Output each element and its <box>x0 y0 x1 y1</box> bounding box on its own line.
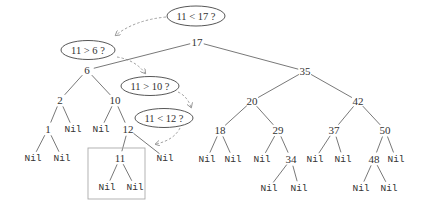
nil-leaf: Nil <box>387 154 404 165</box>
tree-edge <box>210 136 217 152</box>
nil-leaf: Nil <box>380 183 397 194</box>
nil-leaf: Nil <box>24 153 41 164</box>
tree-edge <box>281 136 288 152</box>
nil-leaf: Nil <box>290 183 307 194</box>
tree-edge <box>92 75 110 95</box>
nil-leaf: Nil <box>306 154 323 165</box>
tree-node: 11 <box>115 152 126 164</box>
nil-leaf: Nil <box>224 154 241 165</box>
comparison-label: 11 < 17 ? <box>176 11 215 22</box>
tree-edge <box>223 136 230 152</box>
tree-edge <box>65 75 83 95</box>
tree-node: 10 <box>110 94 122 106</box>
tree-node: 29 <box>273 124 285 136</box>
tree-edge <box>319 136 330 153</box>
nil-leaf: Nil <box>352 183 369 194</box>
tree-edge <box>63 106 70 122</box>
tree-edge <box>258 74 299 97</box>
tree-edge <box>387 137 393 153</box>
tree-edge <box>110 164 117 180</box>
tree-node: 6 <box>84 64 90 76</box>
tree-edge <box>204 44 298 69</box>
nil-leaf: Nil <box>53 153 70 164</box>
tree-node: 50 <box>380 124 392 136</box>
nil-leaf: Nil <box>126 182 143 193</box>
nil-leaf: Nil <box>64 124 81 135</box>
tree-edge <box>122 136 126 152</box>
comparison-label: 11 < 12 ? <box>144 113 183 124</box>
tree-node: 18 <box>215 124 227 136</box>
comparison-bubble: 11 > 10 ? <box>121 77 179 96</box>
nil-leaf: Nil <box>253 154 270 165</box>
tree-edge <box>36 135 45 152</box>
tree-edge <box>265 136 274 153</box>
comparison-label: 11 > 10 ? <box>130 81 169 92</box>
tree-edge <box>118 106 125 122</box>
nil-leaf: Nil <box>98 182 115 193</box>
comparison-bubble: 11 > 6 ? <box>61 41 115 60</box>
search-path-arrow <box>178 92 191 107</box>
search-path-arrow <box>156 128 180 144</box>
tree-node: 1 <box>45 123 51 135</box>
tree-edge <box>293 166 297 182</box>
tree-edge <box>134 133 160 153</box>
tree-node: 37 <box>329 124 341 136</box>
tree-node: 35 <box>300 65 312 77</box>
tree-edge <box>364 165 371 181</box>
tree-edge <box>273 165 287 183</box>
tree-node: 48 <box>369 153 381 165</box>
tree-edge <box>377 165 386 182</box>
tree-node: 20 <box>247 95 259 107</box>
tree-edge <box>376 137 382 153</box>
comparison-bubble: 11 < 12 ? <box>135 109 193 128</box>
tree-edge <box>123 164 132 181</box>
tree-node: 17 <box>192 36 204 48</box>
search-path-arrow <box>117 57 145 73</box>
tree-edge <box>104 106 112 122</box>
comparison-label: 11 > 6 ? <box>71 45 105 56</box>
nil-leaf: Nil <box>156 153 173 164</box>
tree-edge <box>363 106 380 125</box>
nil-leaf: Nil <box>198 154 215 165</box>
tree-node: 34 <box>286 153 298 165</box>
tree-edge <box>51 135 59 151</box>
nil-leaf: Nil <box>92 124 109 135</box>
comparison-bubble: 11 < 17 ? <box>167 6 225 26</box>
tree-edge <box>257 106 274 125</box>
tree-edge <box>225 106 247 126</box>
tree-edge <box>311 74 352 97</box>
tree-edge <box>338 106 353 124</box>
tree-edge <box>51 106 58 122</box>
nil-leaf: Nil <box>260 183 277 194</box>
tree-node: 2 <box>57 94 63 106</box>
tree-node: 42 <box>353 95 364 107</box>
bst-insertion-diagram: 11 < 17 ?11 > 6 ?11 > 10 ?11 < 12 ? 1763… <box>0 0 422 205</box>
tree-edge <box>336 137 341 153</box>
tree-node: 12 <box>123 123 134 135</box>
nil-leaf: Nil <box>334 154 351 165</box>
search-path-arrow <box>116 17 166 35</box>
